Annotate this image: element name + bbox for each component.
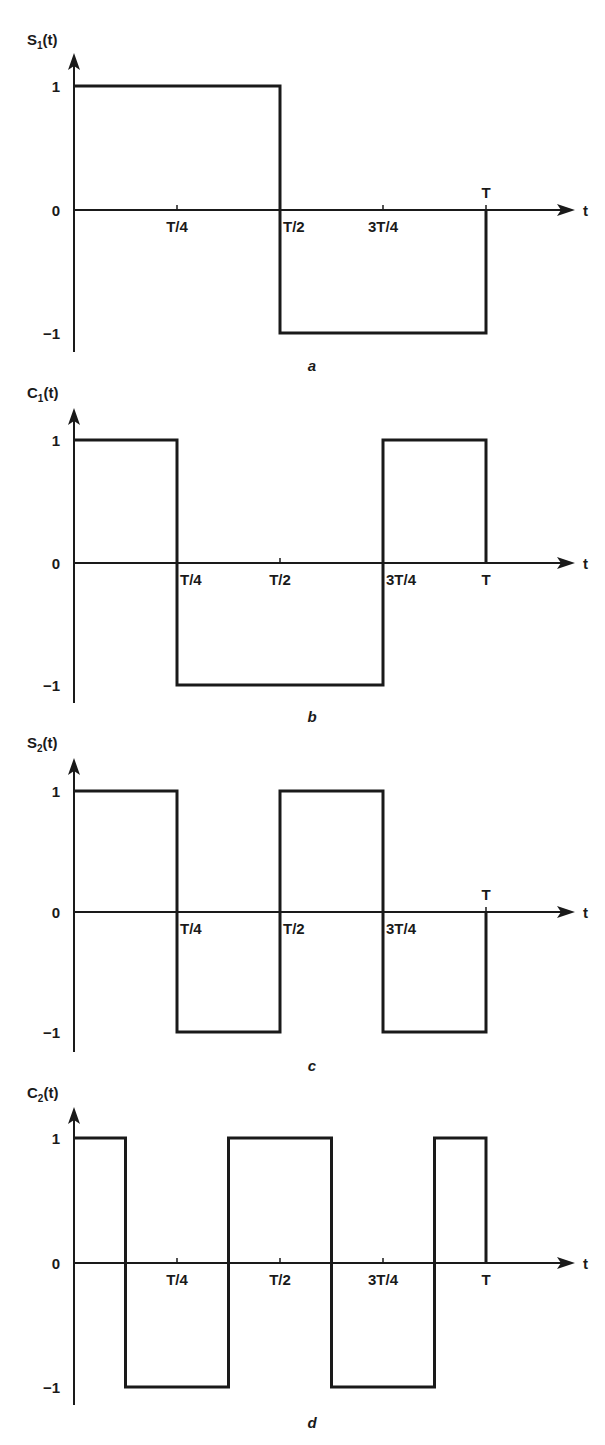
waveform-figure: S1(t)t10−1T/4T/23T/4TaC1(t)t10−1T/4T/23T…	[0, 0, 605, 1445]
y-tick-label: −1	[43, 325, 60, 342]
y-tick-label: 1	[52, 78, 60, 95]
x-axis-label: t	[583, 1255, 588, 1272]
x-tick-label: T/2	[283, 218, 305, 235]
y-tick-label: −1	[43, 1024, 60, 1041]
panel-title: S2(t)	[27, 734, 58, 754]
panel-title: C2(t)	[27, 1084, 58, 1104]
panel-caption: a	[308, 357, 316, 374]
y-tick-label: 0	[52, 1255, 60, 1272]
x-tick-label: 3T/4	[368, 218, 399, 235]
x-tick-label: T	[481, 184, 490, 201]
panel-title: C1(t)	[27, 384, 58, 404]
x-tick-label: T	[481, 886, 490, 903]
panel-caption: b	[307, 708, 316, 725]
panel-b: C1(t)t10−1T/4T/23T/4Tb	[27, 384, 588, 725]
y-tick-label: −1	[43, 1379, 60, 1396]
panel-caption: c	[308, 1057, 317, 1074]
x-tick-label: T/2	[269, 1271, 291, 1288]
x-tick-label: T/4	[180, 920, 202, 937]
x-tick-label: 3T/4	[386, 571, 417, 588]
y-tick-label: −1	[43, 677, 60, 694]
x-tick-label: T/2	[283, 920, 305, 937]
y-tick-label: 0	[52, 904, 60, 921]
x-axis-label: t	[583, 904, 588, 921]
x-axis-label: t	[583, 555, 588, 572]
y-tick-label: 0	[52, 555, 60, 572]
x-tick-label: 3T/4	[386, 920, 417, 937]
panel-caption: d	[307, 1414, 317, 1431]
panel-title: S1(t)	[27, 31, 58, 51]
panel-d: C2(t)t10−1T/4T/23T/4Td	[27, 1084, 588, 1431]
x-tick-label: T	[481, 571, 490, 588]
y-tick-label: 1	[52, 432, 60, 449]
y-tick-label: 1	[52, 783, 60, 800]
y-tick-label: 1	[52, 1130, 60, 1147]
y-tick-label: 0	[52, 202, 60, 219]
x-tick-label: 3T/4	[368, 1271, 399, 1288]
x-tick-label: T/4	[166, 1271, 188, 1288]
x-tick-label: T/2	[269, 571, 291, 588]
x-tick-label: T/4	[166, 218, 188, 235]
x-tick-label: T/4	[180, 571, 202, 588]
panel-a: S1(t)t10−1T/4T/23T/4Ta	[27, 31, 588, 374]
x-tick-label: T	[481, 1271, 490, 1288]
panel-c: S2(t)t10−1T/4T/23T/4Tc	[27, 734, 588, 1074]
x-axis-label: t	[583, 202, 588, 219]
